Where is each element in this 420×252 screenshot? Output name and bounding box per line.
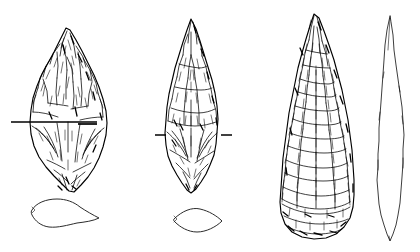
figure-plate bbox=[0, 0, 420, 252]
lithic-illustration-canvas bbox=[0, 0, 420, 252]
